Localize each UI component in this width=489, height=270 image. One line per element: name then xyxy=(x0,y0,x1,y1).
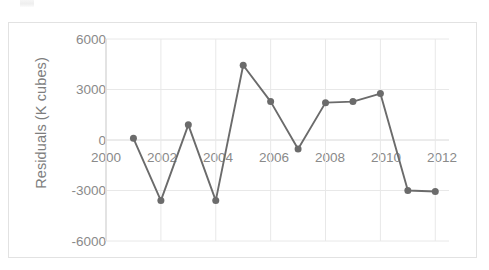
gridlines xyxy=(106,39,449,241)
chart-card: Residuals (K cubes) 6000 3000 0 -3000 -6… xyxy=(8,22,477,258)
line-chart-plot xyxy=(9,23,478,259)
cropped-text-artifact xyxy=(20,0,34,7)
plot-area-wrapper: Residuals (K cubes) 6000 3000 0 -3000 -6… xyxy=(9,23,478,259)
data-line xyxy=(133,65,435,200)
chart-screenshot: Residuals (K cubes) 6000 3000 0 -3000 -6… xyxy=(0,0,489,270)
